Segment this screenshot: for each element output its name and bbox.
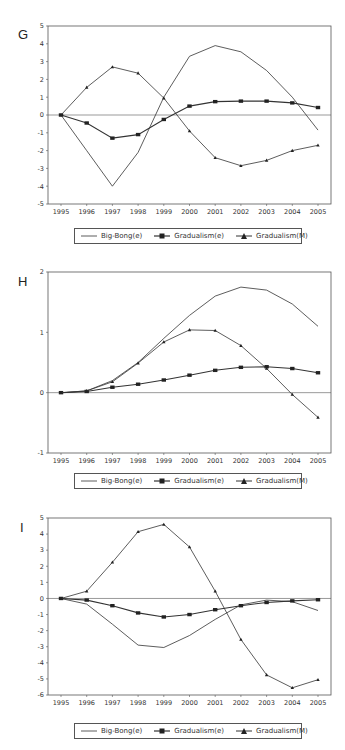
square-marker-icon — [316, 106, 320, 109]
x-tick-label: 2002 — [233, 699, 250, 707]
square-marker-icon — [85, 121, 89, 124]
y-tick-label: -3 — [38, 165, 44, 173]
x-tick-label: 2002 — [233, 457, 250, 465]
x-tick-label: 2001 — [207, 457, 224, 465]
square-marker-icon — [316, 371, 320, 374]
x-tick-label: 2004 — [284, 208, 301, 216]
y-tick-label: 4 — [40, 40, 44, 48]
square-marker-icon — [316, 598, 320, 601]
square-marker-icon — [187, 613, 191, 616]
legend-label: Gradualism(M) — [256, 477, 308, 485]
y-tick-label: -2 — [38, 627, 44, 635]
square-marker-icon — [239, 366, 243, 369]
legend-label: Big-Bong(e) — [101, 727, 142, 735]
y-tick-label: 3 — [40, 546, 44, 554]
legend-item-big-bong: Big-Bong(e) — [81, 232, 142, 240]
triangle-marker-icon — [291, 393, 294, 396]
y-tick-label: 5 — [40, 514, 44, 522]
x-tick-label: 1997 — [104, 699, 121, 707]
square-marker-icon — [187, 373, 191, 376]
triangle-marker-icon — [239, 638, 242, 641]
series-line — [61, 599, 318, 618]
legend-item-big-bong: Big-Bong(e) — [81, 727, 142, 735]
series-line — [61, 524, 318, 687]
x-tick-label: 1995 — [53, 457, 70, 465]
x-tick-label: 1998 — [130, 699, 147, 707]
y-tick-label: -4 — [38, 659, 44, 667]
square-marker-icon — [85, 390, 89, 393]
triangle-marker-icon — [239, 344, 242, 347]
legend-label: Gradualism(M) — [256, 727, 308, 735]
triangle-marker-icon — [162, 523, 165, 526]
legend-label: Gradualism(e) — [174, 477, 224, 485]
square-marker-icon — [213, 608, 217, 611]
x-tick-label: 2005 — [310, 457, 327, 465]
chart-legend: Big-Bong(e) Gradualism(e) Gradualism(M) — [74, 228, 302, 244]
x-tick-label: 1996 — [78, 208, 95, 216]
x-tick-label: 2001 — [207, 208, 224, 216]
x-tick-label: 2003 — [258, 208, 275, 216]
square-marker-icon — [264, 601, 268, 604]
chart-legend: Big-Bong(e) Gradualism(e) Gradualism(M) — [74, 473, 302, 489]
triangle-marker-icon — [236, 728, 252, 734]
legend-item-gradualism-e: Gradualism(e) — [154, 477, 224, 485]
x-tick-label: 2004 — [284, 699, 301, 707]
y-tick-label: -1 — [38, 129, 44, 137]
legend-label: Gradualism(e) — [174, 232, 224, 240]
series-line — [61, 287, 318, 393]
square-marker-icon — [290, 367, 294, 370]
x-tick-label: 1997 — [104, 208, 121, 216]
square-marker-icon — [213, 369, 217, 372]
triangle-marker-icon — [111, 560, 114, 563]
x-tick-label: 1998 — [130, 457, 147, 465]
y-tick-label: -1 — [38, 449, 44, 457]
y-tick-label: -5 — [38, 200, 44, 208]
series-line — [61, 367, 318, 393]
triangle-marker-icon — [316, 416, 319, 419]
x-tick-label: 2005 — [310, 699, 327, 707]
x-tick-label: 1999 — [156, 699, 173, 707]
legend-item-gradualism-e: Gradualism(e) — [154, 727, 224, 735]
square-marker-icon — [110, 136, 114, 139]
legend-label: Gradualism(e) — [174, 727, 224, 735]
legend-label: Big-Bong(e) — [101, 477, 142, 485]
y-tick-label: 5 — [40, 22, 44, 30]
chart-plot: 543210-1-2-3-4-5199519961997199819992000… — [0, 0, 345, 250]
square-marker-icon — [59, 597, 63, 600]
chart-panel-g: G 543210-1-2-3-4-51995199619971998199920… — [0, 0, 345, 250]
square-marker-icon — [136, 133, 140, 136]
triangle-marker-icon — [265, 673, 268, 676]
legend-item-gradualism-m: Gradualism(M) — [236, 232, 308, 240]
series-line — [61, 330, 318, 418]
triangle-marker-icon — [111, 65, 114, 68]
x-tick-label: 1999 — [156, 208, 173, 216]
y-tick-label: 2 — [40, 268, 44, 276]
square-marker-icon — [239, 604, 243, 607]
square-marker-icon — [290, 101, 294, 104]
y-tick-label: -5 — [38, 675, 44, 683]
triangle-marker-icon — [85, 389, 88, 392]
legend-item-gradualism-e: Gradualism(e) — [154, 232, 224, 240]
square-marker-icon — [110, 604, 114, 607]
legend-item-big-bong: Big-Bong(e) — [81, 477, 142, 485]
x-tick-label: 2002 — [233, 208, 250, 216]
x-tick-label: 2005 — [310, 208, 327, 216]
y-tick-label: 1 — [40, 329, 44, 337]
x-tick-label: 2001 — [207, 699, 224, 707]
y-tick-label: 2 — [40, 563, 44, 571]
series-line — [61, 67, 318, 166]
y-tick-label: 4 — [40, 530, 44, 538]
triangle-marker-icon — [85, 589, 88, 592]
triangle-marker-icon — [316, 678, 319, 681]
triangle-marker-icon — [188, 328, 191, 331]
y-tick-label: 2 — [40, 76, 44, 84]
legend-item-gradualism-m: Gradualism(M) — [236, 477, 308, 485]
triangle-marker-icon — [59, 597, 62, 600]
y-tick-label: 1 — [40, 94, 44, 102]
x-tick-label: 1997 — [104, 457, 121, 465]
line-swatch-icon — [81, 233, 97, 239]
panel-label: H — [18, 274, 27, 289]
y-tick-label: 1 — [40, 579, 44, 587]
square-marker-icon — [136, 611, 140, 614]
x-tick-label: 2000 — [181, 457, 198, 465]
